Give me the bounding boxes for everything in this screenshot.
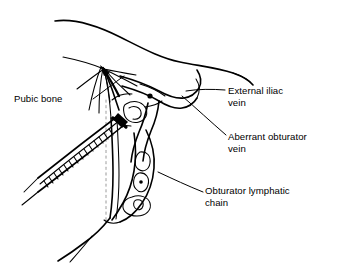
leader-external-iliac-vein: [186, 89, 225, 91]
external-iliac-vein-upper-wall: [120, 76, 199, 98]
aberrant-obturator-vein-node-mark: [147, 93, 152, 98]
lymph-chain-outline-lateral: [120, 130, 154, 222]
lower-tissue-contour-group: [58, 218, 110, 262]
fascial-edge-left-inner: [116, 120, 119, 219]
pubic-fiber-10: [99, 68, 103, 113]
lymph-node-2-hilum: [139, 180, 143, 184]
instrument-handle-upper: [24, 178, 38, 192]
lymph-node-3: [123, 196, 150, 216]
pubic-fiber-1: [63, 57, 104, 69]
lymph-chain-outline-medial: [112, 133, 136, 220]
hatch-4: [94, 141, 98, 147]
leader-obturator-lymphatic-chain: [158, 172, 203, 192]
lower-tissue-contour-branch: [70, 236, 92, 262]
label-aberrant-obturator-vein: Aberrant obturator vein: [228, 131, 344, 154]
instrument-hatching: [44, 129, 113, 187]
tissue-contour-group: [55, 20, 253, 85]
hatch-5: [89, 145, 93, 151]
lower-tissue-contour: [58, 218, 110, 261]
label-obturator-lymphatic-chain: Obturator lymphatic chain: [205, 185, 345, 208]
instrument-lower-edge: [38, 125, 124, 192]
label-external-iliac-vein: External iliac vein: [228, 85, 344, 108]
aberrant-obturator-vein-loop-inner: [129, 107, 141, 120]
instrument-handle-lower: [22, 192, 38, 205]
instrument-shaft-seam: [40, 120, 120, 184]
label-pubic-bone: Pubic bone: [14, 93, 98, 105]
leader-aberrant-obturator-vein: [182, 96, 226, 135]
anatomical-figure: Pubic bone External iliac vein Aberrant …: [0, 0, 347, 274]
hatch-3: [99, 137, 103, 143]
tissue-contour-upper: [55, 20, 253, 85]
